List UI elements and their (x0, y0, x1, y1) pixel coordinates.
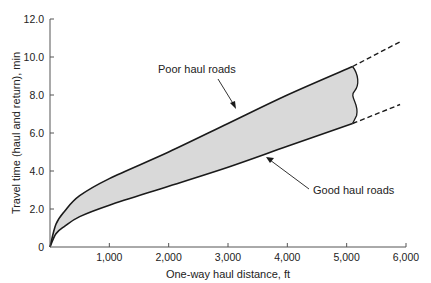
good-haul-roads-label: Good haul roads (313, 184, 395, 196)
x-tick-label: 5,000 (334, 251, 360, 263)
x-axis-title: One-way haul distance, ft (166, 268, 290, 280)
y-tick-label: 12.0 (24, 13, 45, 25)
x-tick-label: 3,000 (215, 251, 241, 263)
x-tick-label: 1,000 (96, 251, 122, 263)
y-tick-label: 4.0 (29, 165, 44, 177)
poor-haul-roads-extrapolation (353, 42, 400, 67)
y-tick-label: 0 (38, 241, 44, 253)
x-tick-label: 2,000 (156, 251, 182, 263)
y-tick-label: 10.0 (24, 51, 45, 63)
y-tick-label: 8.0 (29, 89, 44, 101)
travel-time-band (50, 67, 358, 248)
y-tick-label: 6.0 (29, 127, 44, 139)
good-haul-roads-pointer (270, 160, 309, 189)
arrowhead-icon (230, 101, 236, 109)
x-ticks: 1,0002,0003,0004,0005,0006,000 (96, 243, 419, 263)
poor-haul-roads-pointer (218, 79, 234, 105)
x-tick-label: 6,000 (393, 251, 419, 263)
y-tick-label: 2.0 (29, 203, 44, 215)
x-tick-label: 4,000 (274, 251, 300, 263)
y-ticks: 02.04.06.08.010.012.0 (24, 13, 54, 253)
poor-haul-roads-label: Poor haul roads (158, 63, 236, 75)
y-axis-title: Travel time (haul and return), min (10, 52, 22, 214)
chart: 1,0002,0003,0004,0005,0006,000 02.04.06.… (0, 0, 431, 283)
good-haul-roads-extrapolation (353, 105, 400, 124)
